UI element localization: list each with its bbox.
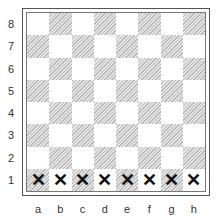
x-mark-icon: ✕ — [142, 171, 157, 189]
square-g8[interactable] — [161, 13, 183, 35]
x-mark-icon: ✕ — [120, 171, 135, 189]
file-label: d — [94, 203, 116, 215]
square-d6[interactable] — [94, 58, 116, 80]
square-c7[interactable] — [72, 35, 94, 57]
square-b6[interactable] — [49, 58, 71, 80]
square-e5[interactable] — [116, 80, 138, 102]
square-g7[interactable] — [161, 35, 183, 57]
square-b5[interactable] — [49, 80, 71, 102]
square-d8[interactable] — [94, 13, 116, 35]
square-e3[interactable] — [116, 124, 138, 146]
square-f7[interactable] — [138, 35, 160, 57]
x-mark-icon: ✕ — [31, 171, 46, 189]
square-b2[interactable] — [49, 147, 71, 169]
square-b8[interactable] — [49, 13, 71, 35]
square-f3[interactable] — [138, 124, 160, 146]
square-d4[interactable] — [94, 102, 116, 124]
square-g3[interactable] — [161, 124, 183, 146]
square-h4[interactable] — [183, 102, 205, 124]
square-f2[interactable] — [138, 147, 160, 169]
rank-label: 5 — [6, 85, 16, 97]
square-d3[interactable] — [94, 124, 116, 146]
x-mark-icon: ✕ — [53, 171, 68, 189]
chess-board: ✕✕✕✕✕✕✕✕ — [27, 13, 205, 191]
rank-label: 1 — [6, 174, 16, 186]
rank-label: 2 — [6, 152, 16, 164]
square-g6[interactable] — [161, 58, 183, 80]
file-label: e — [116, 203, 138, 215]
x-mark-icon: ✕ — [97, 171, 112, 189]
square-a6[interactable] — [27, 58, 49, 80]
square-g2[interactable] — [161, 147, 183, 169]
square-h2[interactable] — [183, 147, 205, 169]
square-c1[interactable]: ✕ — [72, 169, 94, 191]
x-mark-icon: ✕ — [75, 171, 90, 189]
square-a1[interactable]: ✕ — [27, 169, 49, 191]
square-d7[interactable] — [94, 35, 116, 57]
square-d5[interactable] — [94, 80, 116, 102]
file-label: c — [72, 203, 94, 215]
square-g4[interactable] — [161, 102, 183, 124]
x-mark-icon: ✕ — [164, 171, 179, 189]
square-h7[interactable] — [183, 35, 205, 57]
square-e4[interactable] — [116, 102, 138, 124]
rank-label: 8 — [6, 18, 16, 30]
square-a8[interactable] — [27, 13, 49, 35]
square-a3[interactable] — [27, 124, 49, 146]
file-label: g — [161, 203, 183, 215]
square-h8[interactable] — [183, 13, 205, 35]
square-f8[interactable] — [138, 13, 160, 35]
file-label: f — [138, 203, 160, 215]
square-b4[interactable] — [49, 102, 71, 124]
square-d1[interactable]: ✕ — [94, 169, 116, 191]
file-label: a — [27, 203, 49, 215]
square-a5[interactable] — [27, 80, 49, 102]
square-e1[interactable]: ✕ — [116, 169, 138, 191]
x-mark-icon: ✕ — [186, 171, 201, 189]
square-f1[interactable]: ✕ — [138, 169, 160, 191]
square-f6[interactable] — [138, 58, 160, 80]
square-h5[interactable] — [183, 80, 205, 102]
square-c2[interactable] — [72, 147, 94, 169]
square-b7[interactable] — [49, 35, 71, 57]
square-c4[interactable] — [72, 102, 94, 124]
square-g1[interactable]: ✕ — [161, 169, 183, 191]
square-c5[interactable] — [72, 80, 94, 102]
rank-label: 7 — [6, 40, 16, 52]
square-e7[interactable] — [116, 35, 138, 57]
file-label: h — [183, 203, 205, 215]
square-e8[interactable] — [116, 13, 138, 35]
square-c3[interactable] — [72, 124, 94, 146]
rank-label: 3 — [6, 129, 16, 141]
square-h6[interactable] — [183, 58, 205, 80]
rank-label: 6 — [6, 63, 16, 75]
file-label: b — [49, 203, 71, 215]
square-f5[interactable] — [138, 80, 160, 102]
square-c6[interactable] — [72, 58, 94, 80]
square-d2[interactable] — [94, 147, 116, 169]
square-h1[interactable]: ✕ — [183, 169, 205, 191]
square-h3[interactable] — [183, 124, 205, 146]
square-g5[interactable] — [161, 80, 183, 102]
square-a7[interactable] — [27, 35, 49, 57]
square-b3[interactable] — [49, 124, 71, 146]
square-a2[interactable] — [27, 147, 49, 169]
square-f4[interactable] — [138, 102, 160, 124]
square-e2[interactable] — [116, 147, 138, 169]
square-b1[interactable]: ✕ — [49, 169, 71, 191]
square-a4[interactable] — [27, 102, 49, 124]
square-c8[interactable] — [72, 13, 94, 35]
square-e6[interactable] — [116, 58, 138, 80]
rank-label: 4 — [6, 107, 16, 119]
